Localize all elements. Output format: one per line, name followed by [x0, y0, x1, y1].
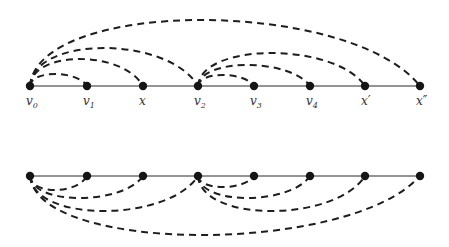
node-label-v3: v3	[250, 94, 262, 110]
node-label-v2: v2	[194, 94, 206, 110]
bottom-node-3	[194, 172, 202, 180]
node-label-v4: v4	[306, 94, 318, 110]
top-node-v0	[26, 82, 34, 90]
bottom-arc-3-6	[198, 176, 365, 211]
bottom-arc-0-3	[30, 176, 198, 211]
top-arc-v2-v3	[198, 75, 254, 86]
top-arc-v0-xpp	[30, 20, 420, 86]
graph-diagram: v0v1xv2v3v4x′x″	[0, 0, 449, 247]
top-arc-v2-xp	[198, 53, 365, 86]
top-node-v4	[306, 82, 314, 90]
bottom-node-0	[26, 172, 34, 180]
top-arc-v0-v1	[30, 74, 87, 86]
node-label-xp: x′	[361, 94, 371, 108]
top-node-xp	[361, 82, 369, 90]
top-node-xpp	[416, 82, 424, 90]
bottom-node-5	[306, 172, 314, 180]
node-label-v1: v1	[83, 94, 95, 110]
bottom-node-1	[83, 172, 91, 180]
bottom-node-6	[361, 172, 369, 180]
bottom-node-4	[250, 172, 258, 180]
top-arc-v0-v2	[30, 48, 198, 86]
top-node-x	[139, 82, 147, 90]
node-label-v0: v0	[26, 94, 38, 110]
bottom-arc-3-4	[198, 176, 254, 187]
bottom-arc-0-7	[30, 176, 420, 235]
top-node-v2	[194, 82, 202, 90]
node-label-xpp: x″	[416, 94, 428, 108]
bottom-node-2	[139, 172, 147, 180]
top-node-v1	[83, 82, 91, 90]
bottom-node-7	[416, 172, 424, 180]
top-node-v3	[250, 82, 258, 90]
node-label-x: x	[139, 94, 146, 108]
